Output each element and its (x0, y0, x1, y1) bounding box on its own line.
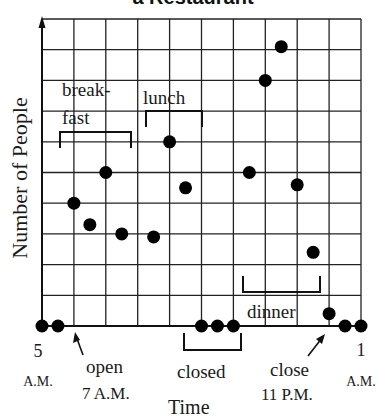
data-point (275, 40, 288, 53)
dinner-label: dinner (247, 301, 296, 322)
closed-bracket (184, 333, 241, 350)
start-time-suffix: A.M. (23, 374, 53, 389)
data-point (195, 320, 208, 333)
data-point (323, 307, 336, 320)
y-axis-label: Number of People (7, 97, 32, 258)
data-point (147, 230, 160, 243)
dinner-bracket (243, 276, 320, 292)
data-point (179, 181, 192, 194)
breakfast-label-line2: fast (62, 107, 90, 128)
data-point (211, 320, 224, 333)
grid (42, 19, 361, 326)
data-point (36, 320, 49, 333)
data-point (259, 74, 272, 87)
data-point (227, 320, 240, 333)
data-point (291, 178, 304, 191)
end-time-number: 1 (357, 340, 366, 360)
closed-label: closed (177, 361, 226, 382)
start-time-number: 5 (34, 341, 43, 361)
open-time-label: 7 A.M. (82, 384, 130, 403)
data-point (355, 320, 368, 333)
data-point (51, 320, 64, 333)
breakfast-label-line1: break- (62, 79, 111, 100)
y-axis-arrow-icon (39, 16, 46, 28)
data-point (115, 227, 128, 240)
data-point (83, 218, 96, 231)
breakfast-bracket (60, 132, 131, 148)
data-point (243, 166, 256, 179)
close-label: close (270, 359, 309, 380)
data-point (67, 197, 80, 210)
data-point (307, 246, 320, 259)
data-point (99, 166, 112, 179)
close-time-label: 11 P.M. (261, 385, 313, 404)
data-point (163, 135, 176, 148)
close-arrow-head-icon (316, 334, 325, 344)
end-time-suffix: A.M. (346, 374, 376, 389)
lunch-bracket (146, 111, 202, 127)
open-arrow-head-icon (73, 332, 80, 343)
lunch-label: lunch (143, 87, 186, 108)
chart-svg: Number of People break- fast lunch dinne… (0, 0, 386, 416)
open-label: open (86, 356, 123, 377)
x-axis-label: Time (168, 396, 210, 416)
data-point (339, 320, 352, 333)
